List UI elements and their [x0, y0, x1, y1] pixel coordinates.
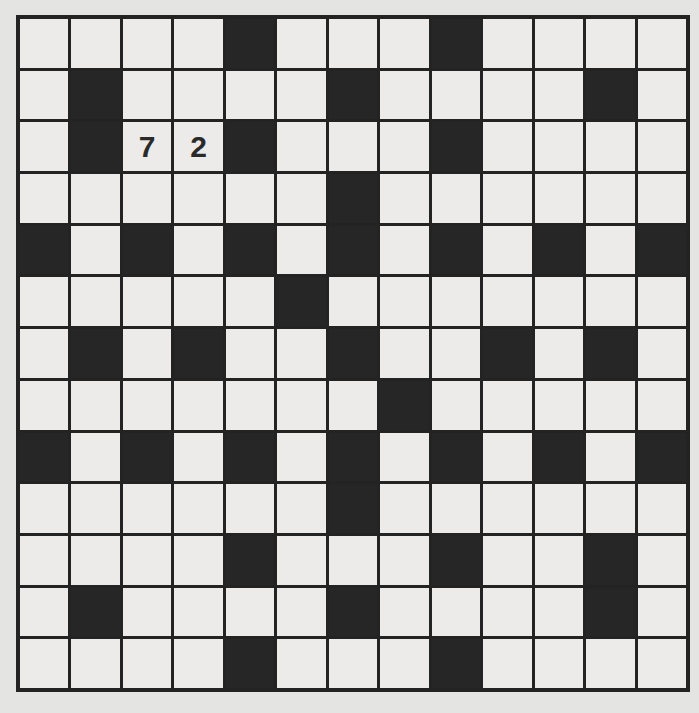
grid-cell[interactable] [20, 174, 68, 223]
grid-cell[interactable] [483, 536, 531, 585]
grid-cell[interactable] [226, 484, 274, 533]
grid-cell[interactable] [123, 329, 171, 378]
grid-cell[interactable] [20, 122, 68, 171]
grid-cell[interactable] [432, 329, 480, 378]
grid-cell[interactable] [380, 277, 428, 326]
grid-cell[interactable] [226, 71, 274, 120]
grid-cell[interactable] [123, 19, 171, 68]
grid-cell[interactable] [71, 639, 119, 688]
grid-cell[interactable] [226, 588, 274, 637]
grid-cell[interactable] [20, 329, 68, 378]
grid-cell[interactable] [483, 433, 531, 482]
grid-cell[interactable] [432, 174, 480, 223]
grid-cell[interactable] [277, 174, 325, 223]
grid-cell[interactable] [483, 639, 531, 688]
grid-cell[interactable] [174, 588, 222, 637]
grid-cell[interactable] [20, 536, 68, 585]
grid-cell[interactable] [329, 381, 377, 430]
grid-cell[interactable] [535, 536, 583, 585]
grid-cell[interactable] [483, 484, 531, 533]
grid-cell[interactable] [483, 277, 531, 326]
grid-cell[interactable] [123, 174, 171, 223]
grid-cell[interactable] [483, 381, 531, 430]
grid-cell[interactable] [226, 277, 274, 326]
grid-cell[interactable] [535, 122, 583, 171]
grid-cell[interactable] [586, 639, 634, 688]
grid-cell[interactable] [174, 174, 222, 223]
grid-cell[interactable] [174, 639, 222, 688]
grid-cell[interactable] [71, 536, 119, 585]
grid-cell[interactable] [638, 19, 686, 68]
grid-cell[interactable] [71, 226, 119, 275]
grid-cell[interactable] [380, 484, 428, 533]
grid-cell[interactable] [277, 122, 325, 171]
grid-cell[interactable] [277, 484, 325, 533]
grid-cell[interactable] [586, 381, 634, 430]
grid-cell[interactable] [638, 639, 686, 688]
grid-cell[interactable] [174, 277, 222, 326]
grid-cell[interactable] [586, 484, 634, 533]
grid-cell[interactable] [432, 71, 480, 120]
grid-cell[interactable] [432, 588, 480, 637]
grid-cell[interactable] [535, 639, 583, 688]
grid-cell[interactable] [380, 71, 428, 120]
grid-cell[interactable] [586, 433, 634, 482]
grid-cell[interactable] [432, 381, 480, 430]
grid-cell[interactable] [483, 226, 531, 275]
grid-cell[interactable] [71, 174, 119, 223]
grid-cell[interactable] [226, 381, 274, 430]
grid-cell[interactable] [432, 484, 480, 533]
grid-cell[interactable] [638, 277, 686, 326]
grid-cell[interactable] [174, 536, 222, 585]
grid-cell[interactable] [535, 484, 583, 533]
grid-cell[interactable] [71, 19, 119, 68]
grid-cell[interactable] [586, 277, 634, 326]
grid-cell[interactable] [638, 329, 686, 378]
grid-cell[interactable] [20, 588, 68, 637]
grid-cell[interactable] [535, 19, 583, 68]
grid-cell[interactable] [277, 639, 325, 688]
grid-cell[interactable] [483, 588, 531, 637]
grid-cell[interactable] [329, 536, 377, 585]
grid-cell[interactable] [123, 639, 171, 688]
grid-cell[interactable] [277, 19, 325, 68]
grid-cell[interactable] [638, 71, 686, 120]
grid-cell[interactable] [535, 381, 583, 430]
grid-cell[interactable] [123, 536, 171, 585]
grid-cell[interactable] [329, 19, 377, 68]
grid-cell[interactable] [71, 484, 119, 533]
grid-cell[interactable] [277, 433, 325, 482]
grid-cell[interactable] [483, 122, 531, 171]
grid-cell[interactable] [586, 226, 634, 275]
grid-cell[interactable] [71, 277, 119, 326]
grid-cell[interactable] [638, 122, 686, 171]
grid-cell[interactable] [483, 19, 531, 68]
grid-cell[interactable] [174, 484, 222, 533]
grid-cell[interactable] [71, 433, 119, 482]
grid-cell[interactable] [123, 588, 171, 637]
grid-cell[interactable] [638, 484, 686, 533]
grid-cell[interactable] [483, 71, 531, 120]
grid-cell[interactable] [226, 174, 274, 223]
grid-cell[interactable] [123, 71, 171, 120]
grid-cell[interactable] [277, 71, 325, 120]
grid-cell[interactable] [226, 329, 274, 378]
grid-cell[interactable] [380, 174, 428, 223]
grid-cell[interactable] [535, 174, 583, 223]
grid-cell[interactable] [174, 19, 222, 68]
grid-cell[interactable] [174, 381, 222, 430]
grid-cell[interactable] [123, 484, 171, 533]
grid-cell[interactable] [329, 639, 377, 688]
grid-cell[interactable] [20, 71, 68, 120]
grid-cell[interactable] [277, 329, 325, 378]
grid-cell[interactable] [380, 122, 428, 171]
grid-cell[interactable] [329, 122, 377, 171]
grid-cell[interactable] [535, 588, 583, 637]
grid-cell[interactable] [586, 19, 634, 68]
grid-cell[interactable] [586, 174, 634, 223]
grid-cell[interactable] [20, 639, 68, 688]
grid-cell[interactable] [380, 19, 428, 68]
grid-cell[interactable] [586, 122, 634, 171]
grid-cell[interactable] [277, 226, 325, 275]
grid-cell[interactable] [638, 174, 686, 223]
